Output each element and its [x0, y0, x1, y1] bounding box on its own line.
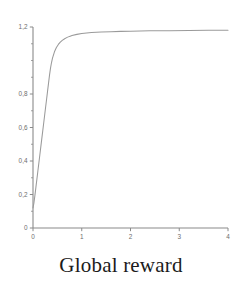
plot-area: 00,20,40,60,81,201234 — [0, 0, 242, 248]
y-tick-label: 0,2 — [19, 191, 28, 198]
y-tick-label: 0,4 — [19, 157, 28, 164]
y-tick-label: 0,8 — [19, 90, 28, 97]
x-tick-label: 2 — [129, 233, 133, 240]
tick-marks — [30, 27, 228, 231]
x-tick-label: 4 — [226, 233, 230, 240]
line-chart: 00,20,40,60,81,201234 — [0, 0, 242, 248]
axes — [33, 27, 228, 228]
series-line-global-reward — [33, 30, 228, 208]
y-tick-label: 0,6 — [19, 124, 28, 131]
figure-global-reward: 00,20,40,60,81,201234 Global reward — [0, 0, 242, 294]
x-tick-label: 3 — [177, 233, 181, 240]
data-series-curve — [33, 30, 228, 208]
y-tick-label: 1,2 — [19, 23, 28, 30]
tick-labels: 00,20,40,60,81,201234 — [19, 23, 231, 240]
figure-caption: Global reward — [0, 250, 242, 280]
y-tick-label: 0 — [24, 224, 28, 231]
x-tick-label: 0 — [31, 233, 35, 240]
x-tick-label: 1 — [80, 233, 84, 240]
